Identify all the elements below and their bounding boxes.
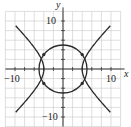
x-tick-10: 10 (106, 74, 116, 84)
y-tick-10: 10 (46, 16, 56, 26)
x-tick-neg10: −10 (4, 74, 20, 84)
x-axis-label: x (124, 69, 128, 79)
y-tick-neg10: −10 (42, 112, 58, 122)
graph-plot (0, 0, 131, 127)
y-axis-label: y (56, 0, 60, 10)
